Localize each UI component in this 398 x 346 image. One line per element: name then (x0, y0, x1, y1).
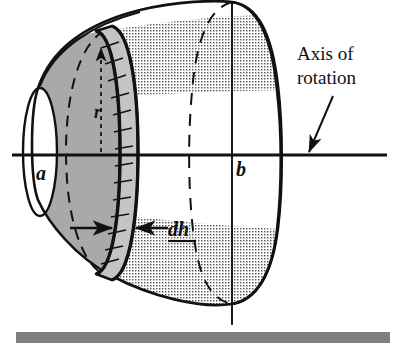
label-dh: dh (168, 218, 189, 240)
label-r: r (94, 102, 102, 122)
label-a: a (36, 162, 46, 184)
axis-label-line2: rotation (297, 67, 357, 88)
label-b: b (236, 158, 246, 180)
figure-container: Axis of rotation a b r dh (0, 0, 398, 346)
footer-rule-bar (16, 332, 390, 343)
axis-label-line1: Axis of (297, 43, 354, 64)
axis-label-leader-arrow (309, 96, 333, 152)
solid-of-revolution-diagram: Axis of rotation a b r dh (0, 0, 398, 346)
solid-body (0, 1, 300, 320)
